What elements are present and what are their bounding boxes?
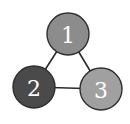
node-1: 1 xyxy=(47,13,89,55)
node-1-label: 1 xyxy=(61,23,75,48)
node-3: 3 xyxy=(80,68,122,110)
node-2-label: 2 xyxy=(27,76,41,101)
nodes-group: 1 2 3 xyxy=(13,13,122,110)
triangle-graph-diagram: 1 2 3 xyxy=(0,0,130,124)
node-2: 2 xyxy=(13,66,55,108)
node-3-label: 3 xyxy=(94,78,108,103)
